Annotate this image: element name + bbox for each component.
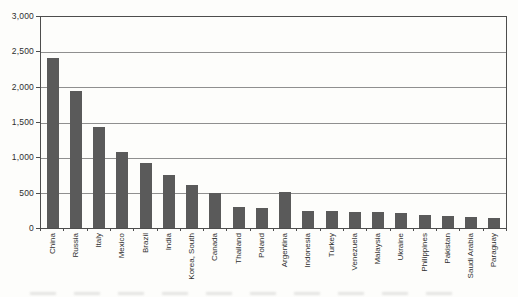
x-label-philippines: Philippines (419, 233, 431, 293)
x-label-venezuela: Venezuela (349, 233, 361, 293)
x-tick-16 (413, 228, 414, 231)
bar-turkey (326, 211, 338, 228)
x-label-korea-south: Korea, South (186, 233, 198, 293)
bar-argentina (279, 192, 291, 228)
x-label-indonesia: Indonesia (302, 233, 314, 293)
gridline-1000 (41, 158, 506, 159)
bar-mexico (116, 152, 128, 228)
x-tick-8 (226, 228, 227, 231)
x-tick-11 (296, 228, 297, 231)
bar-italy (93, 127, 105, 228)
y-tick-label-0: 0 (0, 223, 34, 233)
x-label-brazil: Brazil (140, 233, 152, 293)
bar-pakistan (442, 216, 454, 228)
x-tick-1 (63, 228, 64, 231)
x-tick-19 (483, 228, 484, 231)
x-label-turkey: Turkey (326, 233, 338, 293)
x-tick-2 (87, 228, 88, 231)
x-tick-18 (459, 228, 460, 231)
bar-ukraine (395, 213, 407, 228)
bar-korea-south (186, 185, 198, 228)
y-tick-500 (36, 193, 40, 194)
bar-paraguay (488, 218, 500, 228)
y-tick-label-2000: 2,000 (0, 82, 34, 92)
y-tick-label-2500: 2,500 (0, 46, 34, 56)
y-tick-label-1000: 1,000 (0, 152, 34, 162)
x-tick-9 (250, 228, 251, 231)
x-tick-4 (133, 228, 134, 231)
bar-thailand (233, 207, 245, 228)
x-label-thailand: Thailand (233, 233, 245, 293)
gridline-1500 (41, 123, 506, 124)
x-label-italy: Italy (93, 233, 105, 293)
y-tick-label-500: 500 (0, 188, 34, 198)
bar-brazil (140, 163, 152, 228)
y-tick-1000 (36, 157, 40, 158)
y-tick-label-1500: 1,500 (0, 117, 34, 127)
x-tick-3 (110, 228, 111, 231)
gridline-2500 (41, 52, 506, 53)
y-tick-3000 (36, 16, 40, 17)
bar-indonesia (302, 211, 314, 228)
x-label-saudi-arabia: Saudi Arabia (465, 233, 477, 293)
x-tick-5 (157, 228, 158, 231)
y-tick-2000 (36, 87, 40, 88)
gridline-500 (41, 193, 506, 194)
x-label-ukraine: Ukraine (395, 233, 407, 293)
x-label-pakistan: Pakistan (442, 233, 454, 293)
x-label-india: India (163, 233, 175, 293)
x-label-paraguay: Paraguay (488, 233, 500, 293)
x-label-argentina: Argentina (279, 233, 291, 293)
bar-india (163, 175, 175, 228)
cropped-caption-artifact (30, 292, 460, 295)
x-tick-10 (273, 228, 274, 231)
bar-poland (256, 208, 268, 228)
x-label-russia: Russia (70, 233, 82, 293)
x-tick-0 (40, 228, 41, 231)
gridline-2000 (41, 87, 506, 88)
y-tick-1500 (36, 122, 40, 123)
x-tick-6 (180, 228, 181, 231)
x-tick-13 (343, 228, 344, 231)
bar-venezuela (349, 212, 361, 228)
x-tick-7 (203, 228, 204, 231)
x-tick-17 (436, 228, 437, 231)
x-tick-14 (366, 228, 367, 231)
x-label-china: China (47, 233, 59, 293)
x-tick-20 (506, 228, 507, 231)
bar-chart-figure: 05001,0001,5002,0002,5003,000 ChinaRussi… (0, 0, 518, 297)
x-label-mexico: Mexico (116, 233, 128, 293)
bar-china (47, 58, 59, 228)
x-label-poland: Poland (256, 233, 268, 293)
x-label-canada: Canada (209, 233, 221, 293)
bar-canada (209, 193, 221, 228)
x-tick-15 (390, 228, 391, 231)
bar-philippines (419, 215, 431, 228)
bar-russia (70, 91, 82, 228)
y-tick-label-3000: 3,000 (0, 11, 34, 21)
x-label-malaysia: Malaysia (372, 233, 384, 293)
bar-malaysia (372, 212, 384, 228)
bar-saudi-arabia (465, 217, 477, 228)
plot-area (40, 16, 507, 229)
x-tick-12 (320, 228, 321, 231)
y-tick-2500 (36, 51, 40, 52)
